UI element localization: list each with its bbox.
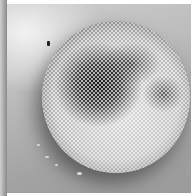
micrograph-image xyxy=(7,4,191,193)
debris-particle xyxy=(37,144,40,146)
debris-particle xyxy=(55,164,58,166)
dark-speck xyxy=(47,41,50,46)
lattice-sphere xyxy=(42,21,190,173)
debris-particle xyxy=(77,172,82,175)
left-edge-strip xyxy=(0,0,7,196)
sphere-rim-shading xyxy=(42,21,190,173)
debris-particle xyxy=(45,156,49,158)
